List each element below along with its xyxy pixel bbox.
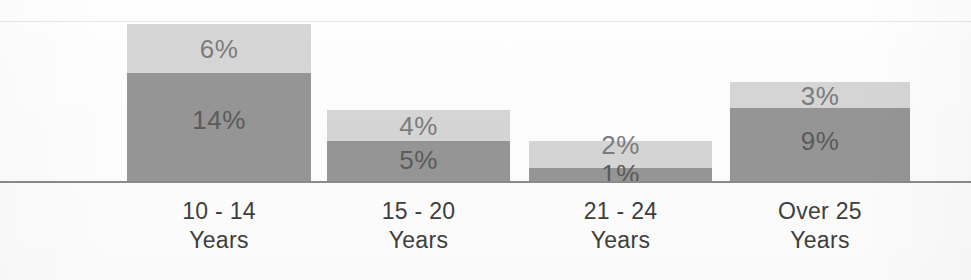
- bar-segment-upper-15-20[interactable]: 4%: [327, 110, 510, 141]
- x-label-21-24-line2: Years: [529, 226, 712, 255]
- bar-group-over-25[interactable]: 3% 9%: [730, 82, 910, 182]
- bar-group-10-14[interactable]: 6% 14%: [127, 24, 311, 182]
- x-label-15-20-line1: 15 - 20: [327, 197, 510, 226]
- x-label-15-20: 15 - 20 Years: [327, 197, 510, 255]
- bar-segment-lower-15-20[interactable]: 5%: [327, 141, 510, 182]
- bar-value-upper-15-20: 4%: [327, 113, 510, 139]
- x-axis-line: [0, 181, 971, 183]
- x-label-21-24: 21 - 24 Years: [529, 197, 712, 255]
- x-label-10-14-line2: Years: [127, 226, 311, 255]
- bar-value-upper-21-24: 2%: [529, 132, 712, 158]
- plot-area: 6% 14% 4% 5% 2% 1% 3: [0, 0, 971, 182]
- bar-value-lower-10-14: 14%: [127, 107, 311, 133]
- bar-segment-lower-21-24[interactable]: 1%: [529, 168, 712, 182]
- bar-value-lower-over-25: 9%: [730, 128, 910, 154]
- bar-segment-upper-over-25[interactable]: 3%: [730, 82, 910, 108]
- x-label-15-20-line2: Years: [327, 226, 510, 255]
- x-label-over-25-line2: Years: [730, 226, 910, 255]
- bar-group-15-20[interactable]: 4% 5%: [327, 110, 510, 182]
- bar-group-21-24[interactable]: 2% 1%: [529, 141, 712, 182]
- x-axis-labels: 10 - 14 Years 15 - 20 Years 21 - 24 Year…: [0, 183, 971, 280]
- bar-segment-lower-10-14[interactable]: 14%: [127, 73, 311, 182]
- gridline-top: [0, 21, 971, 22]
- bar-value-upper-over-25: 3%: [730, 83, 910, 109]
- x-label-21-24-line1: 21 - 24: [529, 197, 712, 226]
- bar-value-lower-15-20: 5%: [327, 147, 510, 173]
- x-label-over-25-line1: Over 25: [730, 197, 910, 226]
- bar-segment-upper-10-14[interactable]: 6%: [127, 24, 311, 73]
- bar-value-upper-10-14: 6%: [127, 36, 311, 62]
- x-label-10-14: 10 - 14 Years: [127, 197, 311, 255]
- stacked-bar-chart: 6% 14% 4% 5% 2% 1% 3: [0, 0, 971, 280]
- bar-segment-lower-over-25[interactable]: 9%: [730, 108, 910, 182]
- x-label-10-14-line1: 10 - 14: [127, 197, 311, 226]
- x-label-over-25: Over 25 Years: [730, 197, 910, 255]
